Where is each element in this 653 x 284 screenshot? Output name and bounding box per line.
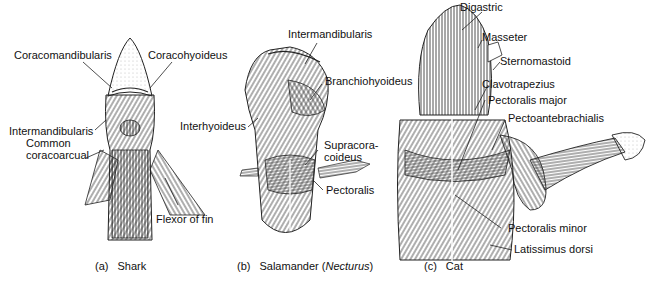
shark-illustration — [85, 38, 205, 240]
label-common: Common — [26, 137, 71, 149]
label-intermandibularis-salamander: Intermandibularis — [288, 28, 372, 40]
label-sternomastoid: Sternomastoid — [500, 55, 571, 67]
label-coracohyoideus: Coracohyoideus — [148, 49, 228, 61]
label-clavotrapezius: Clavotrapezius — [482, 78, 555, 90]
caption-tag-a: (a) — [95, 260, 108, 272]
caption-name-b: Salamander ( — [259, 260, 325, 272]
caption-name-c: Cat — [446, 260, 463, 272]
label-pectoralis-minor: Pectoralis minor — [508, 222, 587, 234]
label-digastric: Digastric — [460, 1, 503, 13]
caption-tag-c: (c) — [424, 260, 437, 272]
caption-name-a: Shark — [117, 260, 146, 272]
label-coracoarcual: coracoarcual — [26, 149, 89, 161]
label-intermandibularis-shark: Intermandibularis — [9, 125, 93, 137]
label-coracomandibularis: Coracomandibularis — [14, 49, 112, 61]
label-pectoralis-major: Pectoralis major — [488, 94, 567, 106]
label-flexor-of-fin: Flexor of fin — [156, 213, 213, 225]
caption-salamander: (b)Salamander (Necturus) — [237, 260, 373, 272]
caption-shark: (a)Shark — [95, 260, 146, 272]
caption-tag-b: (b) — [237, 260, 250, 272]
label-branchiohyoideus: Branchiohyoideus — [325, 75, 412, 87]
label-supracoracoideus-1: Supracora- — [324, 139, 378, 151]
label-masseter: Masseter — [482, 31, 527, 43]
label-latissimus-dorsi: Latissimus dorsi — [514, 243, 593, 255]
caption-cat: (c)Cat — [424, 260, 463, 272]
caption-italic-b: Necturus — [326, 260, 370, 272]
caption-end-b: ) — [370, 260, 374, 272]
label-pectoantebrachialis: Pectoantebrachialis — [508, 112, 604, 124]
label-pectoralis: Pectoralis — [326, 184, 374, 196]
label-supracoracoideus-2: coideus — [324, 151, 362, 163]
label-interhyoideus: Interhyoideus — [180, 120, 246, 132]
